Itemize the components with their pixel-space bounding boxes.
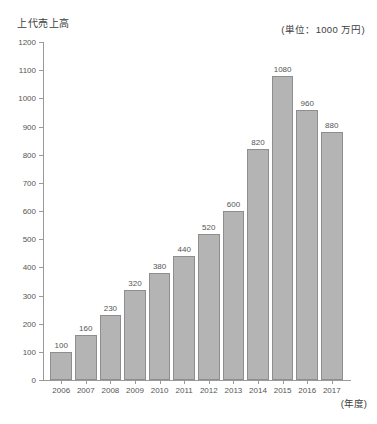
bar-value-label: 100: [55, 341, 68, 350]
bar: [149, 273, 171, 380]
x-tick: [233, 380, 234, 384]
bar-value-label: 600: [227, 200, 240, 209]
y-tick: [39, 324, 44, 325]
y-tick: [39, 211, 44, 212]
bar: [247, 149, 269, 380]
x-tick: [61, 380, 62, 384]
x-tick-label: 2007: [77, 386, 95, 395]
y-tick: [39, 183, 44, 184]
x-tick-label: 2014: [249, 386, 267, 395]
chart-title: 上代売上高: [17, 15, 70, 30]
x-tick: [209, 380, 210, 384]
bar-value-label: 380: [153, 262, 166, 271]
x-tick: [86, 380, 87, 384]
bar-value-label: 960: [301, 99, 314, 108]
y-tick: [39, 98, 44, 99]
y-tick: [39, 380, 44, 381]
y-tick-label: 800: [23, 150, 36, 159]
bar-value-label: 440: [178, 245, 191, 254]
x-tick: [307, 380, 308, 384]
unit-note: (単位：1000 万円): [281, 22, 365, 36]
x-tick-label: 2006: [52, 386, 70, 395]
bar: [223, 211, 245, 380]
bar-value-label: 320: [128, 279, 141, 288]
y-tick-label: 700: [23, 178, 36, 187]
y-tick: [39, 127, 44, 128]
y-tick-label: 300: [23, 291, 36, 300]
y-tick-label: 1200: [18, 38, 36, 47]
y-tick-label: 1100: [19, 66, 36, 75]
y-tick: [39, 352, 44, 353]
bar: [272, 76, 294, 380]
bar: [321, 132, 343, 380]
y-tick: [39, 239, 44, 240]
bar: [296, 110, 318, 380]
x-tick: [184, 380, 185, 384]
y-tick-label: 0: [32, 376, 36, 385]
bar-chart: 上代売上高 (単位：1000 万円) 120011001000900800700…: [0, 0, 377, 424]
y-tick: [39, 267, 44, 268]
y-tick: [39, 155, 44, 156]
y-tick: [39, 296, 44, 297]
bar: [198, 234, 220, 380]
y-tick-label: 1000: [18, 94, 36, 103]
x-tick: [160, 380, 161, 384]
x-tick-label: 2010: [151, 386, 169, 395]
x-tick-label: 2009: [126, 386, 144, 395]
bar: [124, 290, 146, 380]
y-tick-label: 200: [23, 319, 36, 328]
x-tick: [110, 380, 111, 384]
bar: [100, 315, 122, 380]
bar: [75, 335, 97, 380]
y-tick-label: 500: [23, 235, 36, 244]
x-tick-label: 2016: [298, 386, 316, 395]
plot-area: 1200110010009008007006005004003002001000…: [43, 42, 351, 380]
x-tick-label: 2008: [101, 386, 119, 395]
x-tick-label: 2011: [176, 386, 193, 395]
x-tick-label: 2012: [200, 386, 218, 395]
bar-value-label: 520: [202, 223, 215, 232]
x-axis-line: [43, 380, 351, 381]
bar: [50, 352, 72, 380]
bar-value-label: 880: [325, 121, 338, 130]
y-tick-label: 900: [23, 122, 36, 131]
bar-value-label: 230: [104, 304, 117, 313]
y-tick: [39, 70, 44, 71]
bar-value-label: 160: [79, 324, 92, 333]
x-tick: [332, 380, 333, 384]
y-tick-label: 400: [23, 263, 36, 272]
y-tick-label: 100: [23, 347, 36, 356]
x-tick-label: 2015: [274, 386, 292, 395]
x-tick-label: 2017: [323, 386, 341, 395]
x-tick: [135, 380, 136, 384]
x-tick-label: 2013: [225, 386, 243, 395]
bar-value-label: 820: [251, 138, 264, 147]
y-tick-label: 600: [23, 207, 36, 216]
x-tick: [283, 380, 284, 384]
bar: [173, 256, 195, 380]
bar-value-label: 1080: [274, 65, 292, 74]
x-axis-label: (年度): [341, 396, 367, 410]
y-tick: [39, 42, 44, 43]
x-tick: [258, 380, 259, 384]
